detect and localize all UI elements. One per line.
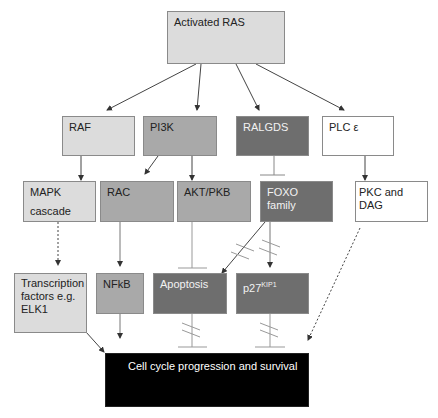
node-rac: RAC bbox=[100, 181, 174, 222]
node-mapk-cascade: MAPKcascade bbox=[23, 181, 96, 222]
node-label: FOXO family bbox=[267, 186, 298, 211]
node-label: Transcription factors e.g. ELK1 bbox=[21, 277, 84, 315]
node-raf: RAF bbox=[62, 116, 135, 156]
node-label: Cell cycle progression and survival bbox=[128, 360, 297, 372]
node-cell-cycle-progression: Cell cycle progression and survival bbox=[105, 353, 309, 407]
node-transcription-factors: Transcription factors e.g. ELK1 bbox=[14, 273, 87, 333]
node-label: PKC and DAG bbox=[359, 186, 403, 211]
node-foxo-family: FOXO family bbox=[260, 181, 333, 222]
node-ralgds: RALGDS bbox=[236, 116, 309, 156]
node-label-superscript: KIP1 bbox=[261, 281, 276, 288]
node-pkc-dag: PKC and DAG bbox=[355, 181, 428, 222]
node-p27-kip1: p27KIP1 bbox=[236, 273, 309, 314]
node-label: Activated RAS bbox=[174, 16, 245, 28]
node-label: NFkB bbox=[103, 278, 131, 290]
node-label: RAF bbox=[69, 121, 91, 133]
node-label: RAC bbox=[107, 186, 130, 198]
node-label: Apoptosis bbox=[160, 278, 208, 290]
node-label: RALGDS bbox=[243, 121, 288, 133]
node-plc-epsilon: PLC ε bbox=[322, 116, 394, 156]
node-label: PLC ε bbox=[329, 121, 358, 133]
node-pi3k: PI3K bbox=[143, 116, 217, 156]
node-label: p27 bbox=[243, 282, 261, 294]
node-label-line2: cascade bbox=[30, 205, 89, 218]
node-label: AKT/PKB bbox=[184, 186, 230, 198]
node-akt-pkb: AKT/PKB bbox=[177, 181, 251, 222]
node-label: PI3K bbox=[150, 121, 174, 133]
node-activated-ras: Activated RAS bbox=[167, 11, 285, 64]
node-label: MAPK bbox=[30, 186, 89, 199]
node-apoptosis: Apoptosis bbox=[153, 273, 227, 314]
node-nfkb: NFkB bbox=[96, 273, 144, 314]
